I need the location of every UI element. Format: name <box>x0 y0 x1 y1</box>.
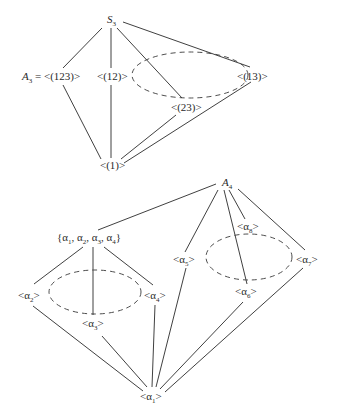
node-klein-four: {α1, α2, α3, α4} <box>57 231 121 246</box>
node-alpha2: <α2> <box>18 289 40 304</box>
node-a3: A3 = <(123)> <box>21 70 80 85</box>
conjugacy-class-ellipse <box>132 52 248 98</box>
node-alpha7: <α7> <box>296 253 318 268</box>
subgroup-lattice-diagrams: S3 A3 = <(123)> <(12)> <(13)> <(23)> <(1… <box>0 0 339 419</box>
a4-lattice: A4 {α1, α2, α3, α4} <α2> <α4> <α3> <α5> … <box>18 176 318 405</box>
edge-c13-e <box>124 82 251 163</box>
conjugacy-class-ellipse-3cycles <box>206 234 292 280</box>
s3-lattice: S3 A3 = <(123)> <(12)> <(13)> <(23)> <(1… <box>21 13 268 172</box>
conjugacy-class-ellipse-v <box>49 270 141 314</box>
node-alpha8: <α8> <box>237 220 259 235</box>
node-alpha3: <α3> <box>82 317 104 332</box>
edge-a7-a1 <box>165 268 303 392</box>
edge-a6-a1 <box>160 302 243 389</box>
edge-a4-a5 <box>185 190 218 252</box>
edge-s3-c23 <box>117 28 182 98</box>
edge-a3-a1 <box>102 336 147 387</box>
node-alpha6: <α6> <box>235 285 257 300</box>
node-c23: <(23)> <box>171 101 202 114</box>
node-c12: <(12)> <box>97 70 128 83</box>
node-alpha5: <α5> <box>173 253 195 268</box>
node-c13: <(13)> <box>237 70 268 83</box>
edge-a4-a8 <box>229 190 245 219</box>
node-s3: S3 <box>107 13 117 28</box>
edge-c23-e <box>121 115 176 159</box>
edge-a3-e <box>63 85 101 159</box>
edge-v-a4 <box>104 247 153 285</box>
edge-s3-a3 <box>63 28 102 68</box>
node-identity: <(1)> <box>100 159 125 172</box>
edge-a4-a1 <box>152 305 155 387</box>
edge-a5-a1 <box>156 268 186 387</box>
edge-a4-v <box>98 184 216 230</box>
edge-s3-c13 <box>123 22 250 67</box>
node-alpha4: <α4> <box>144 289 166 304</box>
node-a4-group: A4 <box>221 176 233 191</box>
node-alpha1: <α1> <box>140 390 162 405</box>
